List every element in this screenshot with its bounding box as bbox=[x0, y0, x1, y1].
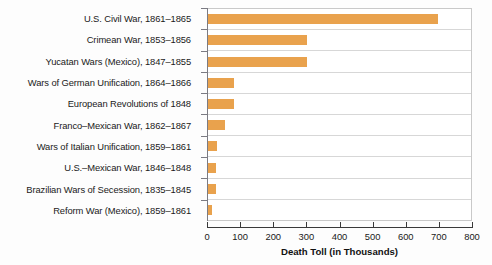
category-label: Crimean War, 1853–1856 bbox=[0, 29, 200, 50]
plot-area bbox=[207, 8, 472, 221]
x-tick-label: 0 bbox=[204, 231, 209, 242]
bar-rows bbox=[208, 9, 471, 220]
x-tick-label: 300 bbox=[299, 231, 315, 242]
y-tick bbox=[201, 51, 207, 72]
bar bbox=[208, 78, 234, 88]
x-tick bbox=[207, 222, 208, 228]
x-tick bbox=[240, 222, 241, 228]
bar bbox=[208, 99, 234, 109]
x-tick-label: 200 bbox=[265, 231, 281, 242]
y-axis-ticks bbox=[201, 8, 207, 221]
category-label: Yucatan Wars (Mexico), 1847–1855 bbox=[0, 51, 200, 72]
y-tick bbox=[201, 114, 207, 135]
bar-row bbox=[208, 94, 471, 115]
x-tick-label: 100 bbox=[232, 231, 248, 242]
category-label: European Revolutions of 1848 bbox=[0, 93, 200, 114]
bar-row bbox=[208, 30, 471, 51]
y-axis-spine bbox=[207, 8, 208, 221]
category-label: Reform War (Mexico), 1859–1861 bbox=[0, 200, 200, 221]
bar-row bbox=[208, 136, 471, 157]
category-label: U.S. Civil War, 1861–1865 bbox=[0, 8, 200, 29]
bar-row bbox=[208, 179, 471, 200]
x-tick-label: 400 bbox=[332, 231, 348, 242]
y-tick bbox=[201, 157, 207, 178]
y-tick bbox=[201, 178, 207, 199]
y-tick bbox=[201, 8, 207, 29]
x-tick-label: 600 bbox=[398, 231, 414, 242]
bar bbox=[208, 141, 217, 151]
bar-row bbox=[208, 9, 471, 30]
bar bbox=[208, 163, 216, 173]
category-label: U.S.–Mexican War, 1846–1848 bbox=[0, 157, 200, 178]
bar bbox=[208, 184, 216, 194]
x-tick bbox=[273, 222, 274, 228]
bar-row bbox=[208, 73, 471, 94]
y-tick bbox=[201, 29, 207, 50]
x-tick-label: 800 bbox=[464, 231, 480, 242]
bar-row bbox=[208, 115, 471, 136]
y-tick bbox=[201, 200, 207, 221]
category-labels: U.S. Civil War, 1861–1865Crimean War, 18… bbox=[0, 8, 200, 221]
x-tick-label: 700 bbox=[431, 231, 447, 242]
x-tick bbox=[406, 222, 407, 228]
x-tick bbox=[439, 222, 440, 228]
x-axis-title: Death Toll (in Thousands) bbox=[207, 246, 472, 257]
bar-row bbox=[208, 51, 471, 72]
x-tick bbox=[340, 222, 341, 228]
bar bbox=[208, 14, 438, 24]
category-label: Franco–Mexican War, 1862–1867 bbox=[0, 114, 200, 135]
x-tick bbox=[373, 222, 374, 228]
category-label: Brazilian Wars of Secession, 1835–1845 bbox=[0, 178, 200, 199]
x-tick-label: 500 bbox=[365, 231, 381, 242]
category-label: Wars of Italian Unification, 1859–1861 bbox=[0, 136, 200, 157]
bar bbox=[208, 35, 307, 45]
bar-chart: U.S. Civil War, 1861–1865Crimean War, 18… bbox=[0, 0, 492, 265]
bar bbox=[208, 205, 212, 215]
y-tick bbox=[201, 72, 207, 93]
y-tick bbox=[201, 93, 207, 114]
y-tick bbox=[201, 136, 207, 157]
bar bbox=[208, 57, 307, 67]
bar-row bbox=[208, 200, 471, 220]
x-tick bbox=[472, 222, 473, 228]
category-label: Wars of German Unification, 1864–1866 bbox=[0, 72, 200, 93]
bar bbox=[208, 120, 225, 130]
bar-row bbox=[208, 157, 471, 178]
x-tick bbox=[306, 222, 307, 228]
